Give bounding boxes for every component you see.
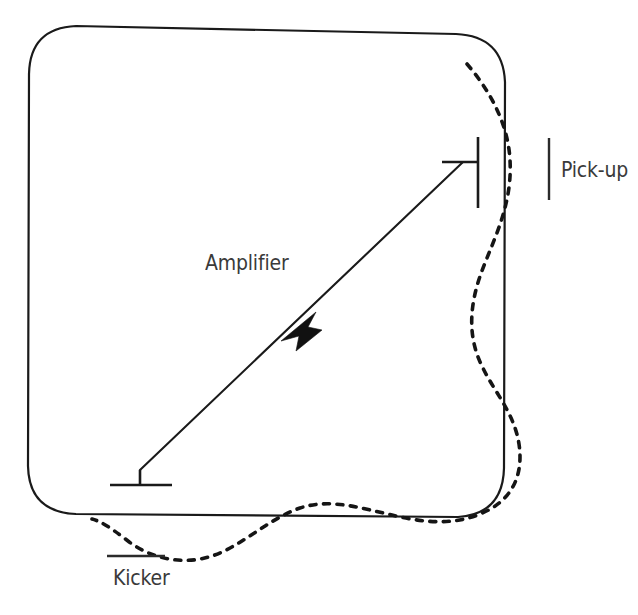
amplifier-signal-line [140,162,478,470]
pickup-electrode-symbol [442,137,478,208]
beam-feedback-diagram: Amplifier Pick-up Kicker [0,0,638,615]
kicker-electrode-symbol [110,470,172,485]
amplifier-label: Amplifier [205,253,289,274]
diagram-canvas [0,0,638,615]
kicker-label: Kicker [113,568,170,589]
pickup-label: Pick-up [561,160,628,181]
amplifier-arrow-icon [281,312,322,351]
